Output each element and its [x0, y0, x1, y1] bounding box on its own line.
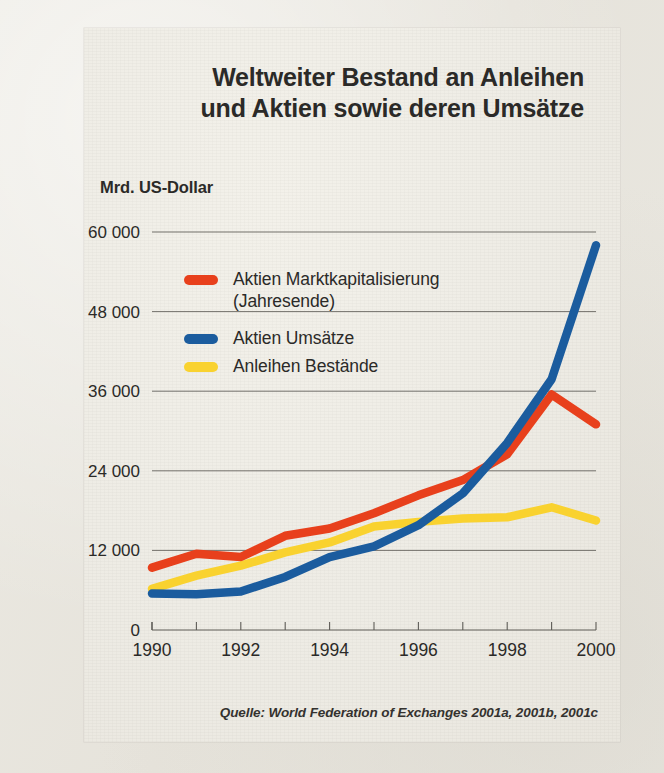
svg-text:1994: 1994 — [310, 640, 349, 660]
svg-text:48 000: 48 000 — [88, 303, 140, 322]
legend-label-1: Aktien Umsätze — [233, 327, 354, 349]
legend-swatch-blue — [184, 334, 218, 344]
chart-panel: Weltweiter Bestand an Anleihen und Aktie… — [84, 28, 620, 742]
legend-item-0[interactable]: Aktien Marktkapitalisierung (Jahresende) — [184, 268, 584, 313]
svg-text:36 000: 36 000 — [88, 382, 140, 401]
legend-item-2[interactable]: Anleihen Bestände — [184, 355, 584, 377]
svg-text:24 000: 24 000 — [88, 462, 140, 481]
legend-label-0-line2: (Jahresende) — [233, 290, 439, 312]
plot-area: 012 00024 00036 00048 00060 000 19901992… — [84, 28, 620, 742]
x-axis-tick-labels: 199019921994199619982000 — [133, 640, 616, 660]
legend-swatch-yellow — [184, 362, 218, 372]
legend-label-0-line1: Aktien Marktkapitalisierung — [233, 269, 439, 289]
source-note: Quelle: World Federation of Exchanges 20… — [220, 705, 598, 720]
chart-svg: 012 00024 00036 00048 00060 000 19901992… — [84, 28, 620, 742]
legend-swatch-red — [184, 275, 218, 285]
svg-text:1996: 1996 — [399, 640, 438, 660]
legend-label-0: Aktien Marktkapitalisierung (Jahresende) — [233, 268, 439, 313]
svg-text:12 000: 12 000 — [88, 541, 140, 560]
svg-text:1998: 1998 — [488, 640, 527, 660]
legend-label-2: Anleihen Bestände — [233, 355, 378, 377]
legend-item-1[interactable]: Aktien Umsätze — [184, 327, 584, 349]
x-axis — [152, 622, 596, 630]
chart-legend: Aktien Marktkapitalisierung (Jahresende)… — [184, 268, 584, 384]
svg-text:1992: 1992 — [221, 640, 260, 660]
svg-text:2000: 2000 — [577, 640, 616, 660]
svg-text:0: 0 — [131, 621, 140, 640]
svg-text:60 000: 60 000 — [88, 223, 140, 242]
svg-text:1990: 1990 — [133, 640, 172, 660]
y-axis-tick-labels: 012 00024 00036 00048 00060 000 — [88, 223, 140, 640]
